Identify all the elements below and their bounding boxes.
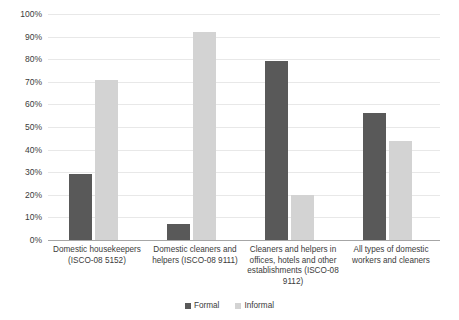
y-tick-label: 0% bbox=[6, 236, 42, 245]
bar-group bbox=[342, 14, 440, 240]
x-axis-label-0: Domestic housekeepers (ISCO-08 5152) bbox=[50, 245, 144, 266]
bar-group bbox=[244, 14, 342, 240]
x-axis-label-line: Domestic housekeepers bbox=[50, 245, 144, 256]
y-tick-label: 100% bbox=[6, 10, 42, 19]
legend-swatch-icon bbox=[235, 303, 241, 309]
plot-area bbox=[48, 14, 440, 240]
y-tick-label: 50% bbox=[6, 123, 42, 132]
x-axis-label-line: helpers (ISCO-08 9111) bbox=[148, 256, 242, 267]
bar-informal bbox=[193, 32, 216, 240]
x-axis-label-line: Domestic cleaners and bbox=[148, 245, 242, 256]
x-axis-label-2: Cleaners and helpers in offices, hotels … bbox=[246, 245, 340, 287]
x-axis-label-3: All types of domestic workers and cleane… bbox=[344, 245, 438, 266]
bar-formal bbox=[167, 224, 190, 240]
x-axis-label-line: offices, hotels and other bbox=[246, 256, 340, 267]
x-axis-label-line: (ISCO-08 5152) bbox=[50, 256, 144, 267]
x-axis-label-line: establishments (ISCO-08 bbox=[246, 266, 340, 277]
y-tick-label: 80% bbox=[6, 55, 42, 64]
x-axis-label-line: workers and cleaners bbox=[344, 256, 438, 267]
y-tick-label: 10% bbox=[6, 213, 42, 222]
x-axis-label-line: Cleaners and helpers in bbox=[246, 245, 340, 256]
bar-group bbox=[146, 14, 244, 240]
legend-label: Informal bbox=[244, 301, 274, 310]
y-tick-label: 70% bbox=[6, 78, 42, 87]
bar-chart: 100% 90% 80% 70% 60% 50% 40% 30% 20% 10%… bbox=[0, 0, 459, 320]
y-tick-label: 40% bbox=[6, 146, 42, 155]
bar-formal bbox=[69, 174, 92, 240]
legend-item-informal[interactable]: Informal bbox=[235, 301, 274, 310]
bar-formal bbox=[265, 61, 288, 240]
x-axis-label-line: All types of domestic bbox=[344, 245, 438, 256]
chart-legend: Formal Informal bbox=[0, 301, 459, 310]
bar-formal bbox=[363, 113, 386, 240]
bar-informal bbox=[389, 141, 412, 240]
x-axis-label-line: 9112) bbox=[246, 277, 340, 288]
bar-informal bbox=[95, 80, 118, 240]
bar-group bbox=[48, 14, 146, 240]
y-tick-label: 60% bbox=[6, 100, 42, 109]
legend-item-formal[interactable]: Formal bbox=[185, 301, 219, 310]
y-tick-label: 30% bbox=[6, 168, 42, 177]
y-tick-label: 90% bbox=[6, 33, 42, 42]
legend-swatch-icon bbox=[185, 303, 191, 309]
bar-informal bbox=[291, 195, 314, 240]
y-tick-label: 20% bbox=[6, 191, 42, 200]
x-axis-label-1: Domestic cleaners and helpers (ISCO-08 9… bbox=[148, 245, 242, 266]
legend-label: Formal bbox=[194, 301, 219, 310]
axis-baseline bbox=[48, 240, 440, 241]
